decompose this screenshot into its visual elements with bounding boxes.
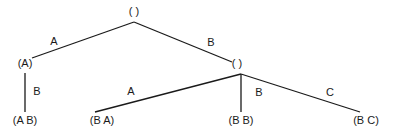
node-BC: (B C) (353, 114, 379, 126)
edge-B-BA (95, 74, 241, 112)
node-BA: (B A) (90, 114, 114, 126)
edge-root-A (32, 22, 134, 58)
node-A: (A) (18, 57, 33, 69)
tree-diagram: ABBABC ( )(A)( )(A B)(B A)(B B)(B C) (0, 0, 398, 136)
node-B: ( ) (232, 57, 242, 69)
node-BB: (B B) (228, 114, 253, 126)
edge-label: B (33, 85, 40, 97)
edge-root-B (134, 22, 232, 62)
nodes: ( )(A)( )(A B)(B A)(B B)(B C) (13, 5, 379, 126)
edge-label: C (326, 86, 334, 98)
node-AB: (A B) (13, 114, 37, 126)
node-root: ( ) (129, 5, 139, 17)
edges (25, 22, 360, 112)
edge-label: A (127, 85, 135, 97)
edge-label: B (255, 86, 262, 98)
edge-label: B (207, 36, 214, 48)
edge-label: A (50, 35, 58, 47)
